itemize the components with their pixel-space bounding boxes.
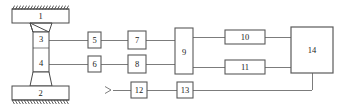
label-block-3: 3 <box>39 35 43 44</box>
label-block-11: 11 <box>241 63 249 72</box>
label-block-14: 14 <box>308 46 317 55</box>
label-block-4: 4 <box>39 59 43 68</box>
input-arrow-icon <box>105 87 111 94</box>
label-block-8: 8 <box>135 60 139 69</box>
label-block-13: 13 <box>181 86 190 95</box>
label-block-6: 6 <box>92 60 96 69</box>
label-block-2: 2 <box>38 89 42 98</box>
label-block-1: 1 <box>38 12 42 21</box>
label-block-12: 12 <box>135 86 144 95</box>
diagram-svg <box>0 0 340 109</box>
link-13-to-14 <box>193 73 312 90</box>
bottom-fixed-hatching <box>12 100 69 104</box>
label-block-10: 10 <box>241 33 250 42</box>
label-block-7: 7 <box>135 36 139 45</box>
lower-taper <box>30 72 52 86</box>
label-block-9: 9 <box>182 48 186 57</box>
label-block-5: 5 <box>92 36 96 45</box>
diagram-canvas: 1 2 3 4 5 6 7 8 9 10 11 12 13 14 <box>0 0 340 109</box>
